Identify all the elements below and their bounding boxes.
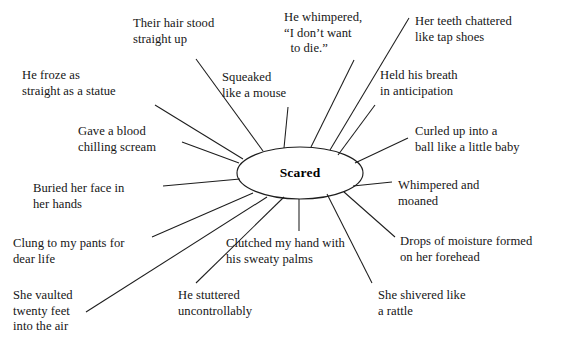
spoke-label-their-hair-stood-straight-up: Their hair stood straight up (133, 16, 214, 47)
spoke-label-she-shivered-like-a-rattle: She shivered like a rattle (378, 288, 466, 319)
spoke-line-held-his-breath-in-anticipation (338, 105, 375, 155)
spoke-label-he-whimpered-i-dont-want-to-die: He whimpered, “I don’t want to die.” (284, 10, 362, 57)
spoke-line-he-froze-as-straight-as-a-statue (155, 105, 243, 159)
spoke-label-he-froze-as-straight-as-a-statue: He froze as straight as a statue (22, 68, 116, 99)
spoke-line-buried-her-face-in-her-hands (163, 179, 240, 186)
spoke-line-gave-a-blood-chilling-scream (182, 142, 239, 163)
spoke-label-held-his-breath-in-anticipation: Held his breath in anticipation (380, 68, 458, 99)
spoke-label-her-teeth-chattered-like-tap-shoes: Her teeth chattered like tap shoes (415, 14, 512, 45)
spoke-label-curled-up-into-a-ball-like-a-little-baby: Curled up into a ball like a little baby (415, 124, 520, 155)
spoke-line-squeaked-like-a-mouse (284, 107, 288, 148)
spoke-label-gave-a-blood-chilling-scream: Gave a blood chilling scream (78, 124, 156, 155)
spoke-label-whimpered-and-moaned: Whimpered and moaned (398, 178, 479, 209)
spoke-line-curled-up-into-a-ball-like-a-little-baby (355, 138, 408, 163)
spoke-label-squeaked-like-a-mouse: Squeaked like a mouse (222, 70, 286, 101)
spoke-label-she-vaulted-twenty-feet-into-the-air: She vaulted twenty feet into the air (13, 288, 73, 335)
spoke-label-clutched-my-hand-with-his-sweaty-palms: Clutched my hand with his sweaty palms (226, 236, 345, 267)
spoke-line-he-whimpered-i-dont-want-to-die (311, 60, 354, 147)
spoke-label-he-stuttered-uncontrollably: He stuttered uncontrollably (178, 288, 252, 319)
spoke-label-clung-to-my-pants-for-dear-life: Clung to my pants for dear life (13, 236, 125, 267)
spoke-label-drops-of-moisture-formed-on-her-forehead: Drops of moisture formed on her forehead (400, 234, 532, 265)
spoke-label-buried-her-face-in-her-hands: Buried her face in her hands (33, 181, 124, 212)
word-web-diagram: Scared Their hair stood straight upHe wh… (0, 0, 588, 358)
spoke-line-drops-of-moisture-formed-on-her-forehead (344, 192, 395, 237)
center-word-label: Scared (237, 165, 363, 181)
